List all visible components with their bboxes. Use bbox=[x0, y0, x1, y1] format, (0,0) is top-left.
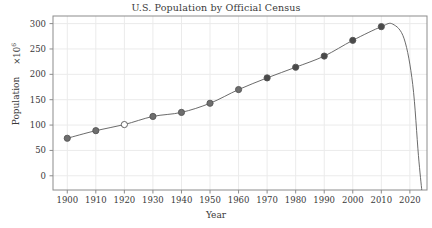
data-point-marker bbox=[293, 64, 299, 70]
y-tick-label: 300 bbox=[14, 19, 46, 29]
x-tick-label: 1950 bbox=[199, 195, 221, 205]
x-tick-label: 1970 bbox=[256, 195, 278, 205]
data-point-marker bbox=[235, 86, 241, 92]
y-axis-multiplier: ×106 bbox=[10, 30, 22, 78]
data-point-marker bbox=[178, 109, 184, 115]
x-tick-label: 1920 bbox=[114, 195, 136, 205]
chart-canvas bbox=[0, 0, 432, 228]
x-tick-label: 1940 bbox=[171, 195, 193, 205]
x-tick-label: 1960 bbox=[228, 195, 250, 205]
data-point-marker bbox=[93, 128, 99, 134]
x-tick-label: 1900 bbox=[56, 195, 78, 205]
data-point-marker-open bbox=[121, 121, 127, 127]
data-point-marker bbox=[378, 24, 384, 30]
x-tick-label: 1990 bbox=[313, 195, 335, 205]
x-tick-label: 2020 bbox=[399, 195, 421, 205]
data-point-marker bbox=[321, 53, 327, 59]
y-axis-multiplier-base: ×10 bbox=[12, 47, 22, 65]
data-point-marker bbox=[207, 100, 213, 106]
x-axis-label: Year bbox=[0, 210, 432, 220]
x-tick-label: 1980 bbox=[285, 195, 307, 205]
data-point-marker bbox=[350, 37, 356, 43]
data-point-marker bbox=[264, 75, 270, 81]
plot-background bbox=[53, 16, 427, 190]
y-axis-multiplier-exponent: 6 bbox=[10, 43, 17, 47]
x-tick-label: 1910 bbox=[85, 195, 107, 205]
data-point-marker bbox=[64, 135, 70, 141]
data-point-marker bbox=[150, 113, 156, 119]
x-tick-label: 2010 bbox=[370, 195, 392, 205]
x-tick-label: 2000 bbox=[342, 195, 364, 205]
x-tick-label: 1930 bbox=[142, 195, 164, 205]
y-tick-label: 50 bbox=[14, 145, 46, 155]
chart-figure: U.S. Population by Official Census 19001… bbox=[0, 0, 432, 228]
y-tick-label: 0 bbox=[14, 171, 46, 181]
